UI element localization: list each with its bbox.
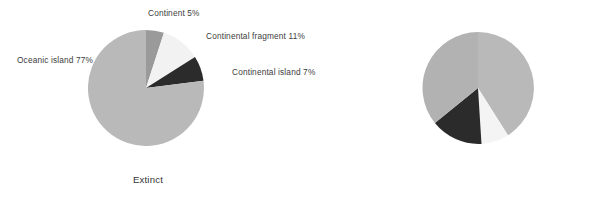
pie-svg-critically-endangered [422, 32, 534, 144]
chart-panel-critically-endangered: Oceanic island 36% Continent 41% Contine… [302, 0, 604, 200]
pie-chart-extinct [88, 30, 204, 146]
label-extinct-oceanic-island: Oceanic island 77% [17, 55, 93, 66]
pie-chart-figure: Continent 5% Continental fragment 11% Co… [0, 0, 604, 200]
pie-svg-extinct [88, 30, 204, 146]
chart-panel-extinct: Continent 5% Continental fragment 11% Co… [0, 0, 302, 200]
label-extinct-continent: Continent 5% [148, 8, 200, 19]
pie-chart-critically-endangered [422, 32, 534, 144]
label-extinct-continental-fragment: Continental fragment 11% [206, 31, 305, 42]
caption-extinct: Extinct [113, 174, 183, 185]
